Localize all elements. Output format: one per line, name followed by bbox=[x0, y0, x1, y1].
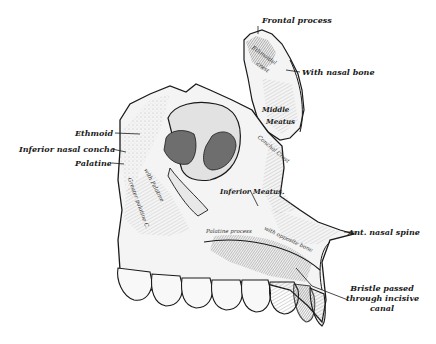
maxilla-diagram: Frontal process With nasal bone Ethmoid … bbox=[0, 0, 436, 344]
label-inferior-meatus: Inferior Meatus. bbox=[220, 188, 284, 196]
bristle-line-3: canal bbox=[346, 303, 418, 313]
label-frontal-process: Frontal process bbox=[262, 15, 332, 25]
bristle-line-2: through incisive bbox=[346, 293, 418, 303]
bristle-line-1: Bristle passed bbox=[346, 283, 418, 293]
label-ant-nasal-spine: Ant. nasal spine bbox=[348, 227, 420, 237]
label-palatine-process: Palatine process bbox=[206, 228, 252, 234]
label-palatine: Palatine bbox=[75, 158, 112, 168]
label-ethmoid: Ethmoid bbox=[75, 128, 113, 138]
label-middle: Middle bbox=[262, 106, 289, 114]
label-inferior-nasal-concha: Inferior nasal concha bbox=[19, 144, 115, 154]
label-meatus: Meatus bbox=[266, 118, 295, 126]
label-bristle-incisive-canal: Bristle passed through incisive canal bbox=[346, 283, 418, 313]
label-with-nasal-bone: With nasal bone bbox=[302, 67, 375, 77]
